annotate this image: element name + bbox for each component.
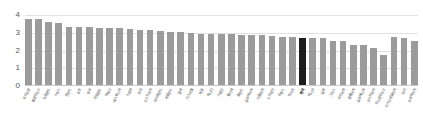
bar-26: [289, 37, 296, 85]
x-label-29: 일본: [320, 88, 327, 95]
y-tick-0: 0: [16, 82, 20, 90]
bar-2: [45, 22, 52, 85]
x-label-wrap-22: 슬로바키아: [248, 88, 255, 125]
x-label-8: 덱마크: [105, 88, 113, 98]
x-label-30: 그리스: [328, 88, 336, 98]
x-label-wrap-13: 아이슬란드: [157, 88, 164, 125]
x-label-25: 프랑스: [278, 88, 286, 98]
bar-13: [157, 31, 164, 85]
x-label-wrap-36: 오스트레일리아: [391, 88, 398, 125]
x-label-38: 슈로바키아: [407, 88, 418, 103]
plot-area: [25, 15, 418, 86]
x-label-wrap-9: 에스토니아: [116, 88, 123, 125]
x-label-13: 아이슬란드: [153, 88, 164, 103]
x-label-wrap-38: 슈로바키아: [411, 88, 418, 125]
bar-24: [269, 36, 276, 85]
y-tick-3: 3: [16, 29, 20, 37]
x-label-1: 룩셈부르크: [31, 88, 42, 103]
x-label-wrap-37: 터키: [401, 88, 408, 125]
x-label-wrap-3: 스위스: [55, 88, 62, 125]
x-label-11: 미국: [137, 88, 144, 95]
x-label-22: 슬로바키아: [244, 88, 255, 103]
y-tick-1: 1: [16, 64, 20, 72]
x-label-16: 이스라엘: [185, 88, 194, 101]
x-label-26: 헝가리: [288, 88, 296, 98]
x-label-37: 터키: [401, 88, 408, 95]
bar-series: [25, 15, 418, 85]
x-label-19: 스페인: [217, 88, 225, 98]
bar-11: [137, 30, 144, 85]
bar-34: [370, 48, 377, 85]
x-label-wrap-6: 영국: [86, 88, 93, 125]
x-label-wrap-5: 호주: [76, 88, 83, 125]
x-label-wrap-28: 멕시코: [309, 88, 316, 125]
x-label-wrap-33: 슬로베니아: [360, 88, 367, 125]
x-label-10: 스웨덴: [125, 88, 133, 98]
x-label-wrap-16: 이스라엘: [188, 88, 195, 125]
x-label-31: 라트비아: [337, 88, 346, 101]
bar-0: [25, 19, 32, 86]
x-label-wrap-10: 스웨덴: [127, 88, 134, 125]
x-label-wrap-4: 핀란드: [66, 88, 73, 125]
bar-27: [299, 38, 306, 85]
bar-3: [55, 23, 62, 85]
bar-6: [86, 27, 93, 85]
axis-baseline: [25, 85, 418, 86]
x-label-wrap-8: 덱마크: [106, 88, 113, 125]
x-label-18: 캐나다: [207, 88, 215, 98]
bar-38: [411, 41, 418, 85]
x-label-wrap-19: 스페인: [218, 88, 225, 125]
bar-7: [96, 28, 103, 85]
bar-36: [391, 37, 398, 85]
x-label-6: 영국: [86, 88, 93, 95]
y-axis: 4 3 2 1 0: [0, 0, 25, 125]
x-label-wrap-14: 네덜란드: [167, 88, 174, 125]
bar-35: [380, 55, 387, 85]
bar-25: [279, 37, 286, 85]
x-label-wrap-7: 아일랜드: [96, 88, 103, 125]
bar-10: [127, 29, 134, 85]
x-label-wrap-21: 폴란드: [238, 88, 245, 125]
x-label-wrap-31: 라트비아: [340, 88, 347, 125]
x-label-15: 칠레: [178, 88, 185, 95]
x-label-23: 이탈리아: [256, 88, 265, 101]
x-label-4: 핀란드: [64, 88, 72, 98]
bar-23: [259, 35, 266, 85]
bar-1: [35, 19, 42, 86]
x-label-7: 아일랜드: [93, 88, 102, 101]
bar-4: [66, 27, 73, 85]
x-label-wrap-0: 포르투갈: [25, 88, 32, 125]
bar-15: [177, 32, 184, 85]
y-tick-4: 4: [16, 11, 20, 19]
bar-chart: 4 3 2 1 0 포르투갈룩셈부르크뉴질랜드스위스핀란드호주영국아일랜드덱마크…: [0, 0, 423, 125]
bar-8: [106, 28, 113, 85]
bar-5: [76, 27, 83, 85]
x-label-wrap-11: 미국: [137, 88, 144, 125]
x-label-wrap-26: 헝가리: [289, 88, 296, 125]
bar-19: [218, 34, 225, 85]
bar-28: [309, 38, 316, 85]
x-label-wrap-17: 독일: [198, 88, 205, 125]
bar-33: [360, 45, 367, 85]
x-label-wrap-1: 룩셈부르크: [35, 88, 42, 125]
x-label-17: 독일: [198, 88, 205, 95]
x-label-2: 뉴질랜드: [43, 88, 52, 101]
x-label-3: 스위스: [54, 88, 62, 98]
x-label-9: 에스토니아: [112, 88, 123, 103]
x-label-wrap-18: 캐나다: [208, 88, 215, 125]
bar-31: [340, 41, 347, 85]
x-label-wrap-2: 뉴질랜드: [45, 88, 52, 125]
x-label-27: 한국: [299, 88, 306, 95]
x-label-wrap-27: 한국: [299, 88, 306, 125]
x-label-24: 노르웨이: [266, 88, 275, 101]
bar-16: [188, 33, 195, 85]
x-label-wrap-25: 프랑스: [279, 88, 286, 125]
bar-22: [248, 35, 255, 85]
x-label-wrap-24: 노르웨이: [269, 88, 276, 125]
x-label-wrap-12: 오스트리아: [147, 88, 154, 125]
bar-9: [116, 28, 123, 85]
x-label-wrap-29: 일본: [320, 88, 327, 125]
bar-29: [320, 38, 327, 85]
bar-20: [228, 34, 235, 85]
bar-18: [208, 34, 215, 85]
